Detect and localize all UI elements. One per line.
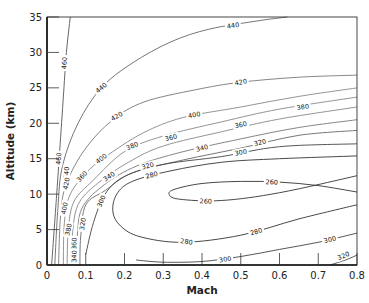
contour-label: 340 <box>70 250 78 263</box>
contour-label: 380 <box>296 102 309 112</box>
contour-label: 340 <box>195 143 209 154</box>
y-tick-label: 20 <box>29 118 42 129</box>
x-tick-label: 0.1 <box>78 270 94 281</box>
contour-label: 440 <box>226 21 240 31</box>
x-tick-label: 0.4 <box>194 270 210 281</box>
contour-label: 320 <box>78 217 88 231</box>
contour-chart: 4604604404404404204204204004004003803803… <box>0 0 369 303</box>
contour-label: 300 <box>323 234 337 245</box>
contour-labels: 4604604404404404204204204004004003803803… <box>54 20 352 264</box>
y-axis-title: Altitude (km) <box>4 102 16 181</box>
contour-label: 420 <box>234 78 248 88</box>
contour-label: 260 <box>200 197 213 205</box>
x-tick-label: 0.2 <box>117 270 133 281</box>
contour-label: 260 <box>265 178 278 186</box>
x-axis-ticks: 00.10.20.30.40.50.60.70.8 <box>44 253 365 281</box>
x-tick-label: 0.3 <box>155 270 171 281</box>
y-tick-label: 30 <box>29 47 42 58</box>
y-tick-label: 0 <box>36 260 42 271</box>
y-tick-label: 25 <box>29 82 42 93</box>
contour-label: 300 <box>219 255 232 265</box>
y-tick-label: 10 <box>29 189 42 200</box>
x-tick-label: 0.7 <box>310 270 326 281</box>
contour-320 <box>80 130 357 265</box>
contour-260 <box>169 176 357 201</box>
contour-label: 360 <box>234 120 248 130</box>
x-tick-label: 0 <box>44 270 50 281</box>
contour-label: 360 <box>70 237 78 250</box>
x-axis-title: Mach <box>186 284 217 296</box>
contour-label: 460 <box>60 57 69 70</box>
contour-label: 360 <box>164 132 178 143</box>
contour-label: 280 <box>180 237 193 247</box>
contour-360 <box>71 107 357 265</box>
x-tick-label: 0.5 <box>233 270 249 281</box>
x-tick-label: 0.8 <box>349 270 365 281</box>
contour-300 <box>86 144 357 255</box>
contour-label: 320 <box>253 137 267 147</box>
y-tick-label: 35 <box>29 12 42 23</box>
contour-label: 420 <box>62 177 72 191</box>
contour-label: 300 <box>234 148 248 158</box>
contour-lines <box>52 17 357 265</box>
contour-label: 400 <box>187 110 201 120</box>
x-tick-label: 0.6 <box>272 270 288 281</box>
y-tick-label: 15 <box>29 153 42 164</box>
contour-label: 400 <box>60 201 70 215</box>
y-tick-label: 5 <box>36 224 42 235</box>
y-axis-ticks: 05101520253035 <box>29 12 59 271</box>
contour-label: 280 <box>249 226 263 237</box>
plot-frame <box>47 17 357 265</box>
contour-label: 280 <box>145 170 159 181</box>
